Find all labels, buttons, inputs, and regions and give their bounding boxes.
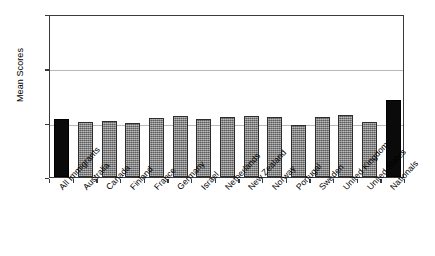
y-axis-title: Mean Scores [15,27,25,123]
plot-area [49,15,404,178]
bar [54,119,69,177]
gridline [50,70,403,71]
bar [173,116,188,177]
bar-chart-figure: Mean Scores 1.01.52.02.5 All ImmigrantsA… [0,0,435,256]
bar [220,117,235,177]
x-axis-tick-mark [49,179,50,183]
